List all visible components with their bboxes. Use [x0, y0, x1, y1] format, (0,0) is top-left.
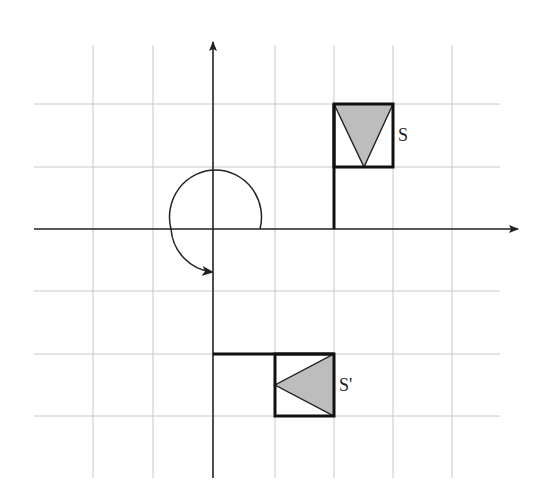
rotation-diagram: S S' — [0, 0, 536, 496]
triangle-s — [334, 104, 393, 167]
flag-s-prime: S' — [213, 354, 352, 416]
label-s: S — [398, 125, 408, 145]
label-s-prime: S' — [339, 375, 352, 395]
rotation-arrow-icon — [170, 170, 262, 272]
triangle-s-prime — [275, 354, 334, 416]
grid — [34, 45, 500, 478]
